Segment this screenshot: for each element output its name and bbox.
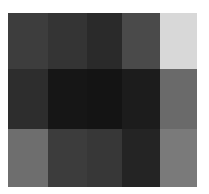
heatmap-cell-r3-c2 [48,129,87,187]
heatmap-cell-r3-c5 [160,129,197,187]
heatmap-cell-r2-c2 [48,69,87,129]
heatmap-cell-r1-c2 [48,13,87,69]
heatmap-cell-r3-c4 [122,129,160,187]
heatmap-chart [0,0,209,194]
heatmap-cell-r1-c3 [87,13,122,69]
heatmap-cell-r1-c4 [122,13,160,69]
heatmap-cell-r2-c1 [8,69,48,129]
heatmap-cell-r2-c3 [87,69,122,129]
heatmap-cell-r3-c3 [87,129,122,187]
heatmap-cell-r1-c5 [160,13,197,69]
heatmap-cell-r2-c4 [122,69,160,129]
heatmap-cell-r3-c1 [8,129,48,187]
heatmap-cell-r2-c5 [160,69,197,129]
heatmap-cell-r1-c1 [8,13,48,69]
